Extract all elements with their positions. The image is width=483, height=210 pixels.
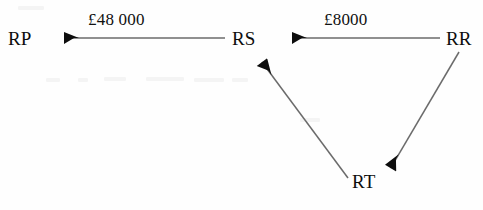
node-rr: RR bbox=[446, 29, 472, 48]
edge-rr-to-rt bbox=[391, 52, 459, 168]
diagram-canvas: RP RS RR RT £48 000 £8000 bbox=[0, 0, 483, 210]
edge-label-rr-to-rs: £8000 bbox=[324, 11, 368, 28]
node-rp: RP bbox=[8, 29, 32, 48]
node-rt: RT bbox=[352, 172, 376, 191]
node-rs: RS bbox=[232, 29, 256, 48]
edge-label-rs-to-rp: £48 000 bbox=[88, 11, 145, 28]
edge-rt-to-rs bbox=[262, 62, 348, 178]
